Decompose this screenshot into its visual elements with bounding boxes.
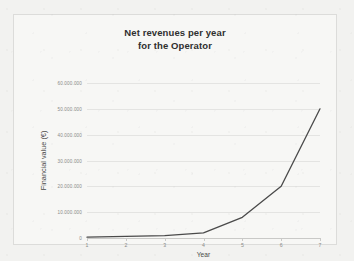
y-tick-label: 20.000.000	[58, 184, 83, 189]
chart-title: Net revenues per year for the Operator	[14, 27, 336, 52]
y-tick-label: 50.000.000	[58, 106, 83, 111]
chart-title-line-1: Net revenues per year	[14, 27, 336, 40]
chart-container: Net revenues per year for the Operator F…	[13, 14, 337, 245]
x-tick-mark	[242, 238, 243, 241]
x-tick-mark	[204, 238, 205, 241]
y-tick-label: 0	[79, 236, 82, 241]
x-axis-title: Year	[87, 251, 320, 258]
x-tick-label: 3	[163, 242, 166, 248]
x-tick-mark	[165, 238, 166, 241]
x-tick-mark	[281, 238, 282, 241]
x-tick-mark	[126, 238, 127, 241]
plot-area: 010.000.00020.000.00030.000.00040.000.00…	[87, 83, 320, 238]
x-tick-label: 7	[319, 242, 322, 248]
x-axis-title-label: Year	[197, 251, 210, 258]
y-tick-label: 40.000.000	[58, 132, 83, 137]
x-tick-mark	[87, 238, 88, 241]
x-tick-label: 1	[86, 242, 89, 248]
y-axis-title-label: Financial value (€)	[40, 131, 49, 191]
y-tick-label: 30.000.000	[58, 158, 83, 163]
y-axis-title: Financial value (€)	[38, 83, 50, 238]
x-tick-label: 5	[241, 242, 244, 248]
chart-title-line-2: for the Operator	[14, 40, 336, 53]
series-polyline	[87, 109, 320, 237]
x-tick-label: 2	[124, 242, 127, 248]
x-tick-mark	[320, 238, 321, 241]
y-tick-label: 60.000.000	[58, 81, 83, 86]
y-tick-label: 10.000.000	[58, 210, 83, 215]
x-tick-label: 4	[202, 242, 205, 248]
data-series-line	[87, 83, 320, 238]
x-tick-label: 6	[280, 242, 283, 248]
